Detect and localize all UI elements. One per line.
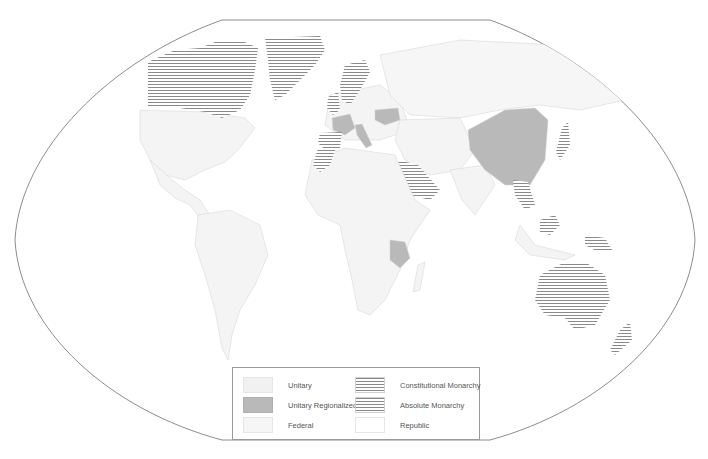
legend-label: Constitutional Monarchy xyxy=(400,381,480,390)
legend-item-constitutional-monarchy: Constitutional Monarchy xyxy=(355,376,480,394)
swatch-unitary-regionalized xyxy=(243,397,273,413)
legend-item-unitary-regionalized: Unitary Regionalized xyxy=(243,396,357,414)
swatch-federal xyxy=(243,417,273,433)
swatch-unitary xyxy=(243,377,273,393)
legend-label: Unitary xyxy=(288,381,312,390)
region-russia xyxy=(380,40,625,118)
legend-label: Federal xyxy=(288,421,313,430)
legend-item-absolute-monarchy: Absolute Monarchy xyxy=(355,396,464,414)
legend-label: Unitary Regionalized xyxy=(288,401,357,410)
legend-label: Republic xyxy=(400,421,429,430)
legend-item-federal: Federal xyxy=(243,416,313,434)
legend-label: Absolute Monarchy xyxy=(400,401,464,410)
legend-item-unitary: Unitary xyxy=(243,376,312,394)
swatch-constitutional-monarchy xyxy=(355,377,385,393)
map-legend: Unitary Unitary Regionalized Federal Con… xyxy=(232,367,480,440)
swatch-absolute-monarchy xyxy=(355,397,385,413)
swatch-republic xyxy=(355,417,385,433)
legend-item-republic: Republic xyxy=(355,416,429,434)
